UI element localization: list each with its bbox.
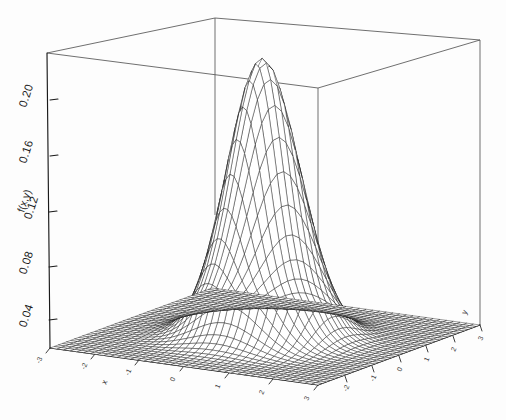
y-tick-label-1: -2 <box>342 384 351 393</box>
surface-plot-3d: 0.20 0.16 0.12 0.08 0.04 f(x,y) <box>0 0 506 420</box>
x-axis-title: x <box>100 378 110 385</box>
y-tick-1 <box>345 376 347 382</box>
y-tick-label-5: 2 <box>450 346 458 353</box>
z-axis <box>47 53 58 348</box>
x-tick-2 <box>135 360 139 365</box>
y-tick-label-3: 0 <box>396 366 404 373</box>
y-axis-title: y <box>460 308 470 315</box>
x-tick-label-0: -3 <box>35 356 44 365</box>
z-axis-line <box>47 53 50 348</box>
z-tick-label-2: 0.08 <box>16 249 35 275</box>
x-tick-label-3: 0 <box>169 376 177 383</box>
z-tick-0.20 <box>50 99 58 100</box>
x-tick-label-6: 3 <box>303 395 311 402</box>
y-tick-label-4: 1 <box>423 356 431 363</box>
x-tick-label-4: 1 <box>214 383 222 390</box>
z-tick-0.08 <box>49 266 57 267</box>
x-tick-label-1: -2 <box>80 362 89 371</box>
box-edge-top-rear-left <box>47 18 215 53</box>
y-tick-4 <box>426 346 428 352</box>
y-tick-2 <box>372 366 374 372</box>
z-tick-label-5: 0.20 <box>16 82 35 108</box>
x-tick-label-5: 2 <box>258 389 266 396</box>
y-tick-6 <box>480 325 482 331</box>
x-tick-5 <box>269 379 273 384</box>
x-tick-4 <box>225 373 229 378</box>
box-edge-top-rear-right <box>215 18 480 40</box>
z-tick-label-4: 0.16 <box>16 138 35 164</box>
x-tick-label-2: -1 <box>124 368 133 377</box>
z-tick-0.16 <box>50 155 58 156</box>
x-tick-0 <box>46 348 50 353</box>
surface-mesh <box>50 58 480 385</box>
z-tick-label-1: 0.04 <box>16 302 35 328</box>
y-tick-3 <box>399 356 401 362</box>
y-tick-5 <box>453 336 455 342</box>
y-tick-label-2: -1 <box>369 374 378 383</box>
y-tick-label-6: 3 <box>477 335 485 342</box>
box-edge-top-front-right <box>318 40 480 88</box>
z-tick-0.12 <box>49 211 57 212</box>
x-tick-6 <box>314 385 318 390</box>
figure-canvas: 0.20 0.16 0.12 0.08 0.04 f(x,y) <box>0 0 506 420</box>
x-tick-1 <box>91 354 95 359</box>
